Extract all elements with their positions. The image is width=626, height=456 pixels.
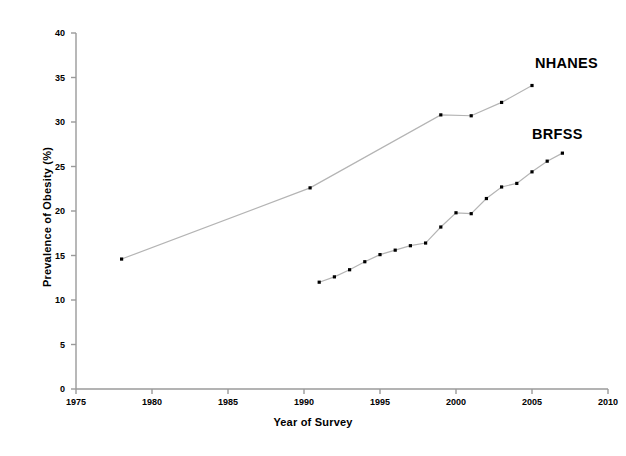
data-point-brfss: [485, 197, 488, 200]
y-tick-label: 40: [39, 28, 65, 38]
series-label-brfss: BRFSS: [532, 126, 583, 142]
data-point-brfss: [318, 281, 321, 284]
chart-plot-area: [0, 0, 626, 456]
x-tick-label: 1975: [56, 397, 96, 407]
x-tick-label: 1990: [284, 397, 324, 407]
y-tick-label: 15: [39, 251, 65, 261]
data-point-nhanes: [308, 186, 311, 189]
data-point-brfss: [470, 212, 473, 215]
data-point-brfss: [363, 260, 366, 263]
y-tick-label: 30: [39, 117, 65, 127]
y-tick-label: 25: [39, 162, 65, 172]
data-point-brfss: [348, 268, 351, 271]
series-label-nhanes: NHANES: [535, 55, 598, 71]
data-point-brfss: [500, 185, 503, 188]
x-tick-label: 1995: [360, 397, 400, 407]
y-tick-label: 20: [39, 206, 65, 216]
x-tick-label: 2010: [588, 397, 626, 407]
data-point-brfss: [333, 275, 336, 278]
x-tick-label: 2000: [436, 397, 476, 407]
x-tick-label: 2005: [512, 397, 552, 407]
x-tick-label: 1980: [132, 397, 172, 407]
data-point-brfss: [439, 225, 442, 228]
series-line-brfss: [319, 153, 562, 282]
data-point-brfss: [409, 244, 412, 247]
y-tick-label: 10: [39, 295, 65, 305]
data-point-brfss: [394, 249, 397, 252]
y-tick-label: 5: [39, 340, 65, 350]
y-tick-label: 0: [39, 384, 65, 394]
data-point-nhanes: [500, 101, 503, 104]
x-axis-title: Year of Survey: [0, 416, 626, 428]
data-point-nhanes: [120, 257, 123, 260]
x-tick-label: 1985: [208, 397, 248, 407]
data-point-nhanes: [470, 114, 473, 117]
data-point-brfss: [424, 241, 427, 244]
data-point-brfss: [530, 170, 533, 173]
data-point-brfss: [515, 182, 518, 185]
series-line-nhanes: [122, 86, 532, 260]
data-point-brfss: [454, 211, 457, 214]
y-tick-label: 35: [39, 73, 65, 83]
obesity-prevalence-chart: Prevalence of Obesity (%) Year of Survey…: [0, 0, 626, 456]
data-point-brfss: [561, 152, 564, 155]
data-point-brfss: [546, 160, 549, 163]
data-point-nhanes: [530, 84, 533, 87]
data-point-brfss: [378, 253, 381, 256]
data-point-nhanes: [439, 113, 442, 116]
